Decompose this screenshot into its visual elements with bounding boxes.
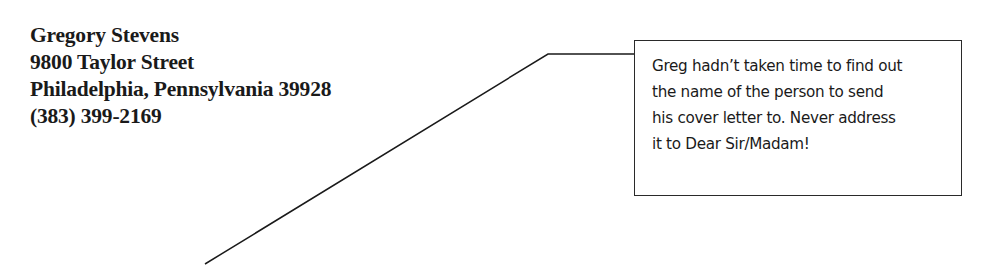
callout-line-3: his cover letter to. Never address xyxy=(652,105,951,131)
callout-line-1: Greg hadn’t taken time to find out xyxy=(652,53,951,79)
callout-line-4: it to Dear Sir/Madam! xyxy=(652,131,951,157)
callout-line-2: the name of the person to send xyxy=(652,79,951,105)
callout-note-box: Greg hadn’t taken time to find out the n… xyxy=(634,40,962,196)
